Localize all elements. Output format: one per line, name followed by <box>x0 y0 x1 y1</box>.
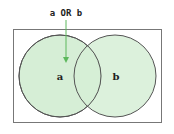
set-a-label: a <box>57 71 64 82</box>
set-b-label: b <box>113 71 120 82</box>
venn-diagram: a OR b a b <box>0 0 174 134</box>
diagram-title: a OR b <box>50 8 83 18</box>
